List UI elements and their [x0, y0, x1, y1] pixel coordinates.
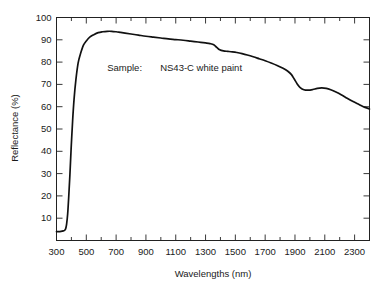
x-tick-label: 1900	[284, 246, 305, 257]
x-tick-label: 1500	[225, 246, 246, 257]
x-tick-label: 900	[138, 246, 154, 257]
x-tick-label: 2300	[344, 246, 365, 257]
y-tick-label: 20	[41, 190, 52, 201]
sample-annotation: Sample:NS43-C white paint	[107, 62, 242, 73]
x-tick-label: 500	[78, 246, 94, 257]
x-tick-label: 2100	[314, 246, 335, 257]
y-tick-label: 80	[41, 56, 52, 67]
x-tick-label: 700	[108, 246, 124, 257]
chart-svg: 3005007009001100130015001700190021002300…	[0, 0, 383, 288]
y-tick-label: 40	[41, 145, 52, 156]
x-axis-title: Wavelengths (nm)	[175, 268, 252, 279]
y-tick-label: 100	[36, 12, 52, 23]
x-tick-label: 1700	[255, 246, 276, 257]
y-tick-label: 90	[41, 34, 52, 45]
y-tick-label: 50	[41, 123, 52, 134]
reflectance-spectrum-figure: 3005007009001100130015001700190021002300…	[0, 0, 383, 288]
x-tick-label: 1300	[195, 246, 216, 257]
y-tick-label: 60	[41, 101, 52, 112]
x-tick-label: 300	[49, 246, 65, 257]
annotation-group: Sample:NS43-C white paint	[107, 62, 242, 73]
y-axis-title: Reflectance (%)	[9, 94, 20, 162]
y-tick-label: 10	[41, 212, 52, 223]
annotation-value: NS43-C white paint	[160, 62, 242, 73]
annotation-label: Sample:	[107, 62, 142, 73]
y-tick-label: 70	[41, 78, 52, 89]
y-tick-label: 30	[41, 168, 52, 179]
x-tick-label: 1100	[166, 246, 186, 257]
